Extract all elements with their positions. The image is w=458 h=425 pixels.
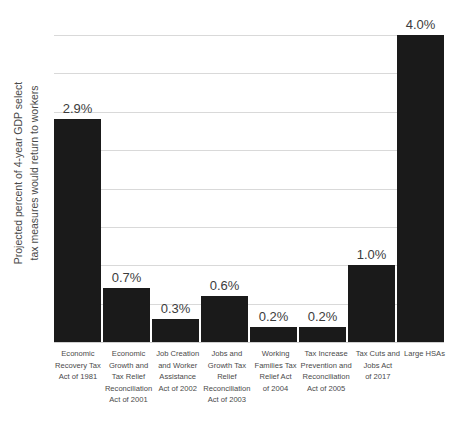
category-label: Tax Cuts andJobs Actof 2017 xyxy=(355,348,401,406)
bar-slot: 2.9% xyxy=(54,10,101,342)
bar[interactable] xyxy=(201,296,248,342)
bar-chart: Projected percent of 4-year GDP select t… xyxy=(0,0,458,425)
category-label-line: Large HSAs xyxy=(404,348,445,360)
bar-value-label: 1.0% xyxy=(348,247,395,262)
bar-value-label: 0.3% xyxy=(152,301,199,316)
x-axis-category-labels: EconomicRecovery TaxAct of 1981EconomicG… xyxy=(54,348,444,406)
bar-slot: 0.6% xyxy=(201,10,248,342)
category-label-line: Act of 1981 xyxy=(55,371,101,383)
bar[interactable] xyxy=(54,119,101,342)
bar-value-label: 0.2% xyxy=(299,309,346,324)
category-label-line: and Worker xyxy=(156,360,199,372)
bar[interactable] xyxy=(250,327,297,342)
category-label-line: Recovery Tax xyxy=(55,360,101,372)
bar[interactable] xyxy=(152,319,199,342)
gridline xyxy=(54,342,444,343)
category-label-line: Families Tax xyxy=(255,360,297,372)
category-label: Large HSAs xyxy=(403,348,446,406)
category-label-line: Act of 2001 xyxy=(105,394,152,406)
category-label-line: of 2004 xyxy=(255,383,297,395)
plot-area: 2.9%0.7%0.3%0.6%0.2%0.2%1.0%4.0% xyxy=(54,12,444,344)
category-label-line: Reconciliation xyxy=(105,383,152,395)
category-label-line: Tax Increase xyxy=(301,348,352,360)
bar-slot: 1.0% xyxy=(348,10,395,342)
bar-slot: 4.0% xyxy=(397,10,444,342)
category-label: Tax IncreasePrevention andReconciliation… xyxy=(300,348,353,406)
category-label: Jobs andGrowth TaxReliefReconciliationAc… xyxy=(202,348,251,406)
category-label-line: Act of 2002 xyxy=(156,383,199,395)
category-label-line: of 2017 xyxy=(356,371,400,383)
bar-slot: 0.7% xyxy=(103,10,150,342)
y-axis-title: Projected percent of 4-year GDP select t… xyxy=(0,0,52,345)
bar[interactable] xyxy=(397,35,444,342)
bar-slot: 0.2% xyxy=(250,10,297,342)
category-label-line: Relief xyxy=(203,371,250,383)
category-label: EconomicGrowth andTax ReliefReconciliati… xyxy=(104,348,153,406)
bar-value-label: 0.6% xyxy=(201,278,248,293)
bar[interactable] xyxy=(299,327,346,342)
bar-value-label: 0.2% xyxy=(250,309,297,324)
category-label: WorkingFamilies TaxRelief Actof 2004 xyxy=(254,348,298,406)
category-label-line: Act of 2005 xyxy=(301,383,352,395)
category-label-line: Tax Relief xyxy=(105,371,152,383)
category-label-line: Reconciliation xyxy=(301,371,352,383)
category-label-line: Jobs Act xyxy=(356,360,400,372)
bar[interactable] xyxy=(348,265,395,342)
category-label-line: Act of 2003 xyxy=(203,394,250,406)
category-label-line: Growth Tax xyxy=(203,360,250,372)
category-label: EconomicRecovery TaxAct of 1981 xyxy=(54,348,102,406)
category-label: Job Creationand WorkerAssistanceAct of 2… xyxy=(155,348,200,406)
category-label-line: Reconciliation xyxy=(203,383,250,395)
y-axis-title-line-1: Projected percent of 4-year GDP select xyxy=(10,81,26,263)
category-label-line: Relief Act xyxy=(255,371,297,383)
category-label-line: Economic xyxy=(55,348,101,360)
category-label-line: Job Creation xyxy=(156,348,199,360)
bar-value-label: 0.7% xyxy=(103,270,150,285)
bar-series: 2.9%0.7%0.3%0.6%0.2%0.2%1.0%4.0% xyxy=(54,10,444,342)
y-axis-title-line-2: tax measures would return to workers xyxy=(26,81,42,263)
category-label-line: Jobs and xyxy=(203,348,250,360)
category-label-line: Growth and xyxy=(105,360,152,372)
category-label-line: Working xyxy=(255,348,297,360)
category-label-line: Prevention and xyxy=(301,360,352,372)
bar[interactable] xyxy=(103,288,150,342)
bar-value-label: 4.0% xyxy=(397,17,444,32)
category-label-line: Economic xyxy=(105,348,152,360)
bar-slot: 0.3% xyxy=(152,10,199,342)
category-label-line: Tax Cuts and xyxy=(356,348,400,360)
bar-slot: 0.2% xyxy=(299,10,346,342)
category-label-line: Assistance xyxy=(156,371,199,383)
bar-value-label: 2.9% xyxy=(54,101,101,116)
